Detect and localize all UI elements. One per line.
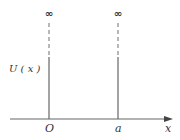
right-infinity-symbol: ∞ [114,9,122,19]
potential-label: U ( x ) [9,64,40,74]
well-width-label: a [115,123,122,134]
origin-label: O [45,123,54,134]
infinite-square-well-diagram: ∞ ∞ U ( x ) O a x [0,0,180,140]
x-axis-label: x [165,123,171,134]
left-infinity-symbol: ∞ [45,9,53,19]
